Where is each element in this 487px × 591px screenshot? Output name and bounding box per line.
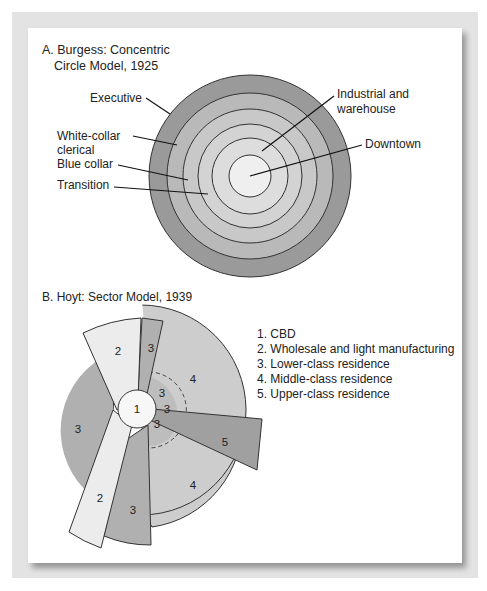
label-transition: Transition: [57, 178, 109, 192]
num-3-left: 3: [75, 423, 81, 435]
num-3-top-strip: 3: [148, 342, 154, 354]
legend-item-wholesale: 2. Wholesale and light manufacturing: [257, 342, 454, 356]
label-executive: Executive: [90, 91, 142, 105]
num-3-bottom: 3: [130, 504, 136, 516]
num-2-bottom: 2: [97, 492, 103, 504]
label-white-collar-line1: White-collar: [57, 129, 120, 143]
legend-item-middle-class: 4. Middle-class residence: [257, 372, 393, 386]
burgess-title-line2: Circle Model, 1925: [54, 59, 158, 73]
burgess-diagram: A. Burgess: Concentric Circle Model, 192…: [42, 43, 421, 277]
num-3-inner-c: 3: [154, 418, 160, 430]
legend-item-upper-class: 5. Upper-class residence: [257, 387, 390, 401]
label-blue-collar: Blue collar: [57, 157, 113, 171]
legend-item-cbd: 1. CBD: [257, 327, 296, 341]
hoyt-title: B. Hoyt: Sector Model, 1939: [42, 290, 192, 304]
num-2-top: 2: [115, 345, 121, 357]
label-industrial-line1: Industrial and: [337, 87, 409, 101]
hoyt-legend: 1. CBD 2. Wholesale and light manufactur…: [257, 327, 454, 401]
burgess-title-line1: A. Burgess: Concentric: [42, 43, 170, 57]
label-downtown: Downtown: [365, 137, 421, 151]
hoyt-diagram: B. Hoyt: Sector Model, 1939: [36, 290, 454, 548]
legend-item-lower-class: 3. Lower-class residence: [257, 357, 390, 371]
label-white-collar-line2: clerical: [57, 143, 94, 157]
num-cbd: 1: [134, 403, 140, 415]
num-3-inner-a: 3: [159, 387, 165, 399]
num-5: 5: [222, 436, 228, 448]
label-industrial-line2: warehouse: [336, 102, 396, 116]
num-4-top: 4: [190, 373, 197, 385]
num-3-inner-b: 3: [164, 403, 170, 415]
figure-svg: A. Burgess: Concentric Circle Model, 192…: [0, 0, 487, 591]
num-4-bottom: 4: [190, 479, 197, 491]
